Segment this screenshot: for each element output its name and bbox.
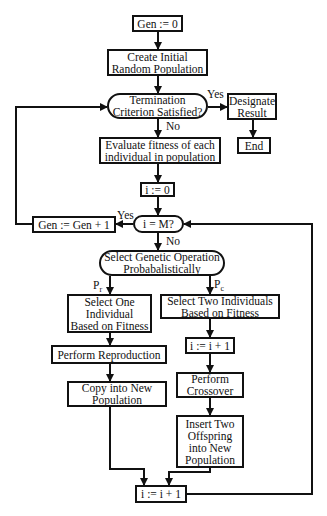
- node-text: Criterion Satisfied?: [113, 106, 203, 118]
- node-text: Gen := 0: [137, 18, 177, 30]
- node-text: Based on Fitness: [71, 320, 149, 332]
- termination-yes-label: Yes: [207, 88, 224, 100]
- node-text: Select Genetic Operation: [104, 251, 220, 263]
- perform-reproduction-box: Perform Reproduction: [51, 345, 167, 364]
- gen-increment-box: Gen := Gen + 1: [32, 216, 116, 233]
- node-text: Perform Reproduction: [57, 349, 160, 361]
- node-text: Termination: [129, 94, 185, 106]
- i-init-box: i := 0: [140, 182, 175, 197]
- select-two-individuals-box: Select Two Individuals Based on Fitness: [160, 294, 280, 319]
- node-text: i := i + 1: [190, 340, 230, 352]
- node-text: i = M?: [143, 218, 174, 230]
- i-increment-crossover-box: i := i + 1: [185, 337, 235, 354]
- node-text: Select One: [84, 296, 134, 308]
- i-equals-m-decision: i = M?: [133, 215, 184, 233]
- end-box: End: [237, 137, 271, 154]
- node-text: Result: [237, 107, 266, 119]
- i-check-no-label: No: [166, 235, 180, 247]
- node-text: Individual: [86, 308, 133, 320]
- node-text: Evaluate fitness of each: [105, 139, 215, 151]
- node-text: i := i + 1: [141, 488, 181, 500]
- evaluate-fitness-box: Evaluate fitness of each individual in p…: [99, 137, 221, 164]
- node-text: Insert Two: [185, 418, 234, 430]
- node-text: Gen := Gen + 1: [38, 219, 110, 231]
- i-increment-final-box: i := i + 1: [135, 485, 187, 503]
- i-check-yes-label: Yes: [117, 209, 134, 221]
- copy-into-population-box: Copy into New Population: [67, 381, 167, 407]
- prob-subscript: c: [220, 284, 224, 293]
- node-text: Copy into New: [82, 382, 152, 394]
- node-text: into New: [189, 442, 231, 454]
- node-text: individual in population: [105, 151, 216, 163]
- prob-subscript: r: [99, 285, 102, 294]
- gen-init-box: Gen := 0: [132, 15, 183, 32]
- designate-result-box: Designate Result: [227, 93, 277, 120]
- insert-offspring-box: Insert Two Offspring into New Population: [176, 415, 244, 468]
- select-one-individual-box: Select One Individual Based on Fitness: [67, 294, 152, 333]
- node-text: Probabalistically: [123, 263, 200, 275]
- node-text: Population: [185, 454, 235, 466]
- node-text: Offspring: [188, 430, 233, 442]
- create-population-box: Create Initial Random Population: [107, 49, 208, 76]
- node-text: Based on Fitness: [181, 307, 259, 319]
- node-text: i := 0: [145, 184, 169, 196]
- node-text: Designate: [229, 95, 275, 107]
- perform-crossover-box: Perform Crossover: [176, 372, 244, 398]
- node-text: Crossover: [187, 385, 234, 397]
- node-text: End: [245, 140, 264, 152]
- termination-decision: Termination Criterion Satisfied?: [107, 93, 208, 119]
- node-text: Random Population: [112, 63, 204, 75]
- node-text: Population: [92, 394, 142, 406]
- node-text: Perform: [191, 373, 229, 385]
- select-genetic-operation-decision: Select Genetic Operation Probabalistical…: [99, 250, 225, 276]
- prob-crossover-label: Pc: [214, 278, 224, 292]
- node-text: Select Two Individuals: [167, 295, 273, 307]
- node-text: Create Initial: [127, 51, 187, 63]
- termination-no-label: No: [166, 120, 180, 132]
- prob-reproduction-label: Pr: [93, 279, 102, 293]
